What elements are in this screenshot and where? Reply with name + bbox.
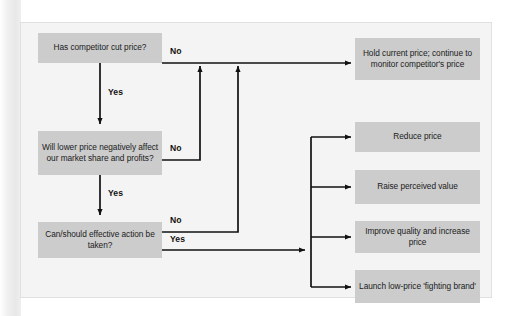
decision-node-text: Has competitor cut price? (41, 42, 159, 53)
page-edge-shading (0, 0, 21, 316)
outcome-node-improve-quality-increase-price: Improve quality and increase price (355, 221, 480, 253)
edge-label-d3-yes: Yes (170, 234, 185, 244)
outcome-node-text: Improve quality and increase price (358, 226, 477, 249)
decision-node-can-should-effective-action: Can/should effective action be taken? (38, 222, 162, 258)
outcome-node-hold-current-price: Hold current price; continue to monitor … (355, 38, 480, 80)
outcome-node-text: Reduce price (358, 131, 477, 142)
edge-label-d1-no: No (170, 46, 182, 56)
decision-node-text: Can/should effective action be taken? (41, 229, 159, 252)
edge-label-d2-no: No (170, 143, 182, 153)
outcome-node-text: Raise perceived value (358, 181, 477, 192)
edge-label-d2-yes: Yes (108, 188, 123, 198)
outcome-node-text: Launch low-price 'fighting brand' (358, 281, 477, 292)
outcome-node-launch-fighting-brand: Launch low-price 'fighting brand' (355, 270, 480, 303)
flowchart-figure: Has competitor cut price? Will lower pri… (0, 0, 511, 316)
decision-node-text: Will lower price negatively affect our m… (41, 142, 159, 165)
edge-label-d1-yes: Yes (108, 87, 123, 97)
outcome-node-raise-perceived-value: Raise perceived value (355, 170, 480, 204)
decision-node-will-lower-price-affect-share: Will lower price negatively affect our m… (38, 131, 162, 175)
edge-label-d3-no: No (170, 215, 182, 225)
outcome-node-reduce-price: Reduce price (355, 122, 480, 152)
decision-node-has-competitor-cut-price: Has competitor cut price? (38, 33, 162, 63)
outcome-node-text: Hold current price; continue to monitor … (358, 48, 477, 71)
